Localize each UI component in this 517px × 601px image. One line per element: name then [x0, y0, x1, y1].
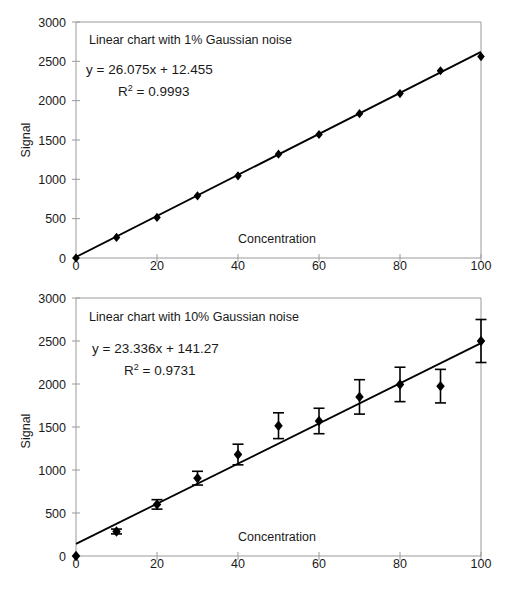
- y-tick-label: 0: [59, 550, 66, 564]
- trendline-equation-bottom: y = 23.336x + 141.27: [92, 341, 219, 356]
- y-tick-label: 2500: [38, 335, 66, 349]
- data-point-marker: [194, 191, 202, 200]
- y-tick-label: 1000: [38, 464, 66, 478]
- r-squared-prefix-bottom: R: [124, 363, 134, 378]
- data-point-marker: [112, 526, 121, 536]
- x-axis-tick-labels-bottom: 020406080100: [73, 557, 492, 571]
- y-tick-label: 1500: [38, 421, 66, 435]
- y-tick-label: 0: [59, 252, 66, 266]
- chart-title-top: Linear chart with 1% Gaussian noise: [89, 33, 292, 47]
- x-tick-label: 80: [393, 557, 407, 571]
- chart-panel-top: 050010001500200025003000 020406080100 Si…: [0, 0, 517, 300]
- trendline-bottom: [76, 343, 481, 544]
- r-squared-label-bottom: R2 = 0.9731: [124, 362, 195, 378]
- r-squared-prefix-top: R: [118, 84, 128, 99]
- data-point-marker: [356, 109, 364, 118]
- data-point-marker: [355, 392, 364, 402]
- y-axis-title-bottom: Signal: [19, 414, 33, 449]
- y-tick-label: 1000: [38, 173, 66, 187]
- x-axis-title-bottom: Concentration: [238, 530, 316, 544]
- x-tick-label: 20: [150, 259, 164, 273]
- data-point-marker: [275, 150, 283, 159]
- y-tick-label: 500: [45, 507, 66, 521]
- data-point-marker: [315, 130, 323, 139]
- y-tick-label: 1500: [38, 134, 66, 148]
- y-tick-label: 500: [45, 212, 66, 226]
- data-point-marker: [153, 499, 162, 509]
- y-tick-label: 2000: [38, 378, 66, 392]
- chart-top-canvas: 050010001500200025003000 020406080100 Si…: [0, 0, 517, 300]
- r-squared-suffix-bottom: = 0.9731: [139, 363, 196, 378]
- y-tick-label: 3000: [38, 16, 66, 30]
- x-tick-label: 100: [471, 259, 492, 273]
- y-axis-tick-labels-top: 050010001500200025003000: [38, 16, 66, 266]
- chart-title-bottom: Linear chart with 10% Gaussian noise: [89, 310, 299, 324]
- data-point-marker: [234, 449, 243, 459]
- y-axis-tick-labels-bottom: 050010001500200025003000: [38, 292, 66, 564]
- x-tick-label: 40: [231, 557, 245, 571]
- x-tick-label: 40: [231, 259, 245, 273]
- x-tick-label: 60: [312, 557, 326, 571]
- x-tick-label: 60: [312, 259, 326, 273]
- r-squared-suffix-top: = 0.9993: [133, 84, 190, 99]
- chart-bottom-canvas: 050010001500200025003000 020406080100 Si…: [0, 281, 517, 601]
- r-squared-label-top: R2 = 0.9993: [118, 83, 189, 99]
- plot-frame-top: [76, 22, 481, 258]
- y-axis-title-top: Signal: [19, 123, 33, 158]
- chart-panel-bottom: 050010001500200025003000 020406080100 Si…: [0, 281, 517, 601]
- data-point-marker: [396, 379, 405, 389]
- trendline-equation-top: y = 26.075x + 12.455: [86, 62, 213, 77]
- x-tick-label: 100: [471, 557, 492, 571]
- x-tick-label: 20: [150, 557, 164, 571]
- data-point-marker: [234, 171, 242, 180]
- x-tick-label: 80: [393, 259, 407, 273]
- data-point-marker: [436, 381, 445, 391]
- figure-root: 050010001500200025003000 020406080100 Si…: [0, 0, 517, 601]
- x-axis-tick-labels-top: 020406080100: [73, 259, 492, 273]
- y-tick-label: 3000: [38, 292, 66, 306]
- x-axis-title-top: Concentration: [238, 232, 316, 246]
- data-point-marker: [396, 89, 404, 98]
- y-tick-label: 2000: [38, 94, 66, 108]
- data-point-marker: [274, 421, 283, 431]
- y-tick-label: 2500: [38, 55, 66, 69]
